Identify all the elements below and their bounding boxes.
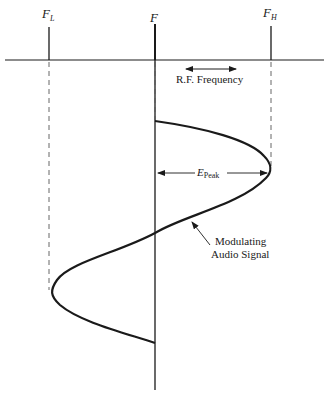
e-peak-label: EPeak (196, 166, 219, 180)
fm-deviation-diagram: FL F FH R.F. Frequency EPeak Modulating … (0, 0, 324, 394)
f-center-label: F (149, 10, 159, 25)
modulating-audio-signal-curve (52, 121, 270, 343)
modulating-label-line2: Audio Signal (211, 248, 269, 260)
modulating-label-line1: Modulating (215, 235, 267, 247)
f-high-label: FH (262, 5, 278, 22)
rf-frequency-label: R.F. Frequency (176, 73, 244, 85)
f-low-label: FL (41, 6, 55, 23)
modulating-leader-arrow (192, 222, 210, 245)
